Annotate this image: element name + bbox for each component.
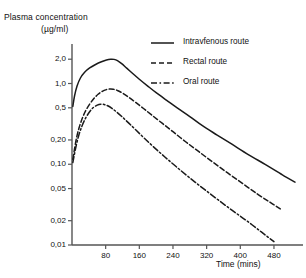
x-tick-label: 400 xyxy=(226,251,254,260)
plasma-concentration-chart: Plasma concentration (µg/ml) Time (mins)… xyxy=(0,0,306,278)
y-tick-label: 2,0 xyxy=(55,54,66,63)
y-tick-label: 0,02 xyxy=(50,216,66,225)
x-tick-label: 480 xyxy=(260,251,288,260)
legend-label: Oral route xyxy=(183,77,219,86)
x-tick-label: 320 xyxy=(193,251,221,260)
legend-label: Rectal route xyxy=(183,57,227,66)
legend-swatches xyxy=(151,43,174,83)
y-tick-label: 0,10 xyxy=(50,159,66,168)
legend-label: Intravfenous route xyxy=(183,37,249,46)
x-tick-label: 80 xyxy=(92,251,120,260)
tick-marks xyxy=(68,59,274,249)
axes xyxy=(72,44,303,245)
x-tick-label: 160 xyxy=(125,251,153,260)
plot-area xyxy=(0,0,306,278)
y-tick-label: 0,01 xyxy=(50,240,66,249)
y-tick-label: 0,05 xyxy=(50,184,66,193)
y-tick-label: 0,20 xyxy=(50,135,66,144)
x-tick-label: 240 xyxy=(159,251,187,260)
y-tick-label: 0,5 xyxy=(55,103,66,112)
y-tick-label: 1,0 xyxy=(55,79,66,88)
curve-oral-route xyxy=(73,104,274,242)
data-curves xyxy=(73,59,295,242)
